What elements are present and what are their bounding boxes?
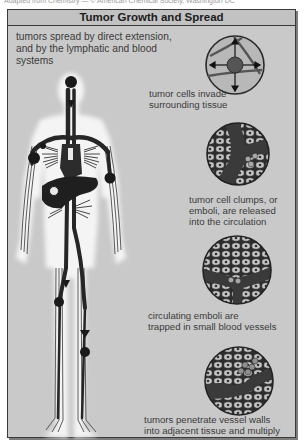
caption-release: tumor cell clumps, or emboli, are releas… xyxy=(189,194,278,227)
diagram-panel: Tumor Growth and Spread tumors spread by… xyxy=(7,9,296,438)
vessel-penetration-circle-icon xyxy=(203,345,275,417)
caption-invade: tumor cells invade surrounding tissue xyxy=(149,88,227,110)
diagram-title: Tumor Growth and Spread xyxy=(8,10,295,26)
emboli-trapped-circle-icon xyxy=(201,234,273,306)
intro-text: tumors spread by direct extension, and b… xyxy=(16,31,186,67)
credit-line: Adapted from Chemistry — © American Chem… xyxy=(4,0,304,5)
human-body-icon xyxy=(10,68,155,444)
emboli-release-circle-icon xyxy=(205,121,271,187)
caption-penetrate: tumors penetrate vessel walls into adjac… xyxy=(144,414,280,436)
caption-trapped: circulating emboli are trapped in small … xyxy=(148,310,277,332)
tumor-invasion-circle-icon xyxy=(204,34,266,96)
